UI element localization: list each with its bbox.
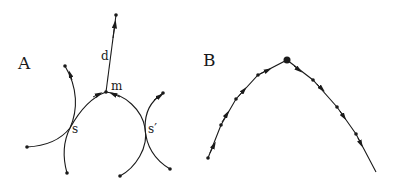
node [234, 97, 238, 101]
node [335, 105, 339, 109]
node-apex [284, 57, 291, 64]
node [25, 145, 29, 149]
arrow-sprime-crossing [154, 96, 160, 100]
label-d: d [101, 49, 109, 63]
node [206, 156, 210, 160]
node-d-end [114, 13, 118, 17]
arrow-b [260, 70, 268, 74]
arrow-b [210, 145, 214, 153]
node-m [104, 90, 108, 94]
arrow-b [238, 90, 244, 97]
arrow-b [340, 111, 344, 117]
panel-a-label: A [17, 53, 31, 73]
node [118, 174, 122, 178]
arrow-d [113, 24, 115, 38]
arrow-b [222, 114, 227, 122]
label-m: m [111, 79, 123, 93]
label-s-prime: s′ [148, 122, 157, 136]
edge-s-crossing [64, 66, 75, 173]
node [161, 91, 165, 95]
node [256, 73, 260, 77]
node [168, 167, 172, 171]
label-s: s [72, 122, 78, 136]
diagram-canvas: A d m s s′ B [0, 0, 396, 187]
arrow-b [358, 138, 361, 144]
edge-m-to-sprime [106, 92, 146, 176]
panel-a: A d m s s′ [17, 13, 172, 178]
panel-b: B [203, 50, 376, 172]
trajectory [208, 60, 376, 172]
node [219, 123, 223, 127]
node [65, 171, 69, 175]
node [311, 78, 315, 82]
node [63, 64, 67, 68]
node [354, 132, 358, 136]
panel-b-label: B [203, 50, 216, 70]
arrow-b [317, 84, 322, 89]
